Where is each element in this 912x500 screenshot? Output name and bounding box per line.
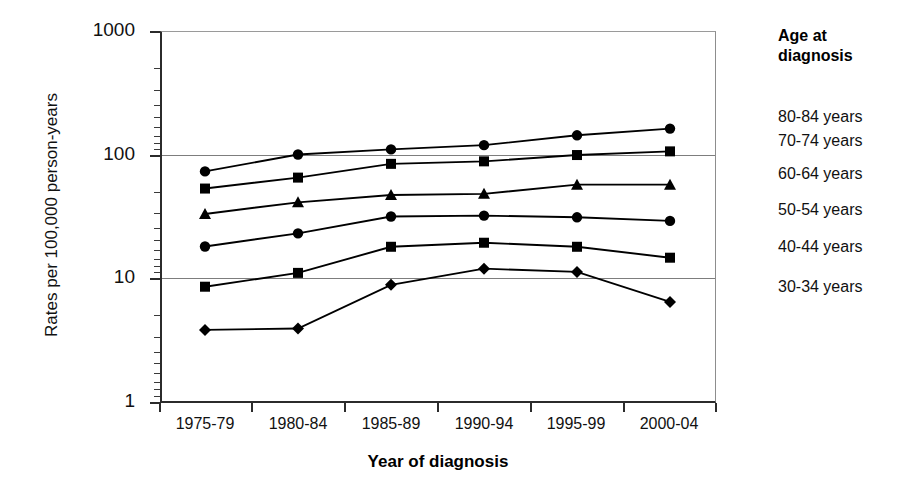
legend-item-60-64: 60-64 years: [778, 165, 863, 183]
series-line: [205, 129, 670, 172]
legend-item-50-54: 50-54 years: [778, 201, 863, 219]
legend-title-line1: Age at: [778, 26, 908, 46]
data-point-marker: [665, 146, 675, 156]
chart-figure: Rates per 100,000 person-years 1000 100 …: [0, 0, 912, 500]
data-point-marker: [200, 166, 210, 176]
data-point-marker: [386, 159, 396, 169]
data-point-marker: [479, 238, 489, 248]
series-line: [205, 185, 670, 214]
data-point-marker: [572, 242, 582, 252]
legend-item-80-84: 80-84 years: [778, 108, 863, 126]
data-point-marker: [572, 150, 582, 160]
data-point-marker: [479, 140, 489, 150]
data-point-marker: [199, 324, 211, 336]
data-point-marker: [479, 156, 489, 166]
series-60-64-years: [199, 179, 676, 219]
data-point-marker: [665, 253, 675, 263]
data-point-marker: [293, 173, 303, 183]
data-point-marker: [386, 211, 396, 221]
series-70-74-years: [200, 146, 675, 193]
data-point-marker: [292, 323, 304, 335]
series-line: [205, 216, 670, 247]
legend: Age at diagnosis: [778, 26, 908, 66]
series-80-84-years: [200, 123, 675, 176]
data-point-marker: [571, 266, 583, 278]
series-line: [205, 151, 670, 188]
data-point-marker: [572, 212, 582, 222]
data-point-marker: [478, 263, 490, 275]
data-point-marker: [664, 296, 676, 308]
data-point-marker: [200, 184, 210, 194]
data-point-marker: [386, 144, 396, 154]
series-line: [205, 269, 670, 330]
data-point-marker: [293, 149, 303, 159]
series-40-44-years: [200, 238, 675, 292]
data-point-marker: [479, 210, 489, 220]
data-point-marker: [200, 241, 210, 251]
series-30-34-years: [199, 263, 676, 336]
data-series-layer: [0, 0, 912, 500]
data-point-marker: [385, 279, 397, 291]
legend-item-40-44: 40-44 years: [778, 238, 863, 256]
data-point-marker: [293, 268, 303, 278]
data-point-marker: [665, 216, 675, 226]
legend-title-line2: diagnosis: [778, 46, 908, 66]
legend-item-70-74: 70-74 years: [778, 132, 863, 150]
data-point-marker: [572, 130, 582, 140]
legend-item-30-34: 30-34 years: [778, 278, 863, 296]
data-point-marker: [386, 242, 396, 252]
data-point-marker: [200, 282, 210, 292]
data-point-marker: [293, 228, 303, 238]
data-point-marker: [665, 123, 675, 133]
